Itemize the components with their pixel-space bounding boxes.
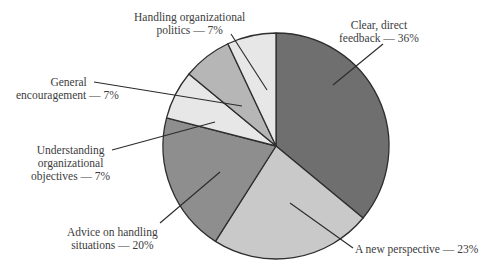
label-line: Handling organizational [134,11,245,24]
label-line: Advice on handling [67,226,158,239]
label-line: politics — 7% [134,24,245,37]
label-understanding-objectives: Understanding organizational objectives … [31,144,110,183]
label-line: feedback — 36% [339,32,419,45]
label-line: General [16,76,119,89]
label-line: A new perspective — 23% [355,243,478,256]
label-line: encouragement — 7% [16,89,119,102]
label-clear-direct-feedback: Clear, direct feedback — 36% [339,19,419,45]
label-line: objectives — 7% [31,170,110,183]
label-line: Understanding [31,144,110,157]
label-general-encouragement: General encouragement — 7% [16,76,119,102]
label-line: situations — 20% [67,239,158,252]
label-line: Clear, direct [339,19,419,32]
label-new-perspective: A new perspective — 23% [355,243,478,256]
label-handling-politics: Handling organizational politics — 7% [134,11,245,37]
label-advice-handling-situations: Advice on handling situations — 20% [67,226,158,252]
label-line: organizational [31,157,110,170]
